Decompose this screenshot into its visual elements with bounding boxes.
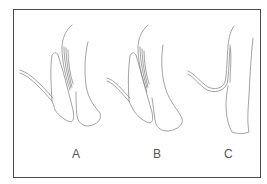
panel-label-b: B xyxy=(153,148,161,160)
panel-b-drawing xyxy=(107,25,182,131)
panel-label-c: C xyxy=(224,148,233,160)
panel-c-drawing xyxy=(188,26,253,134)
panel-a-drawing xyxy=(20,25,100,126)
panel-label-a: A xyxy=(72,148,80,160)
